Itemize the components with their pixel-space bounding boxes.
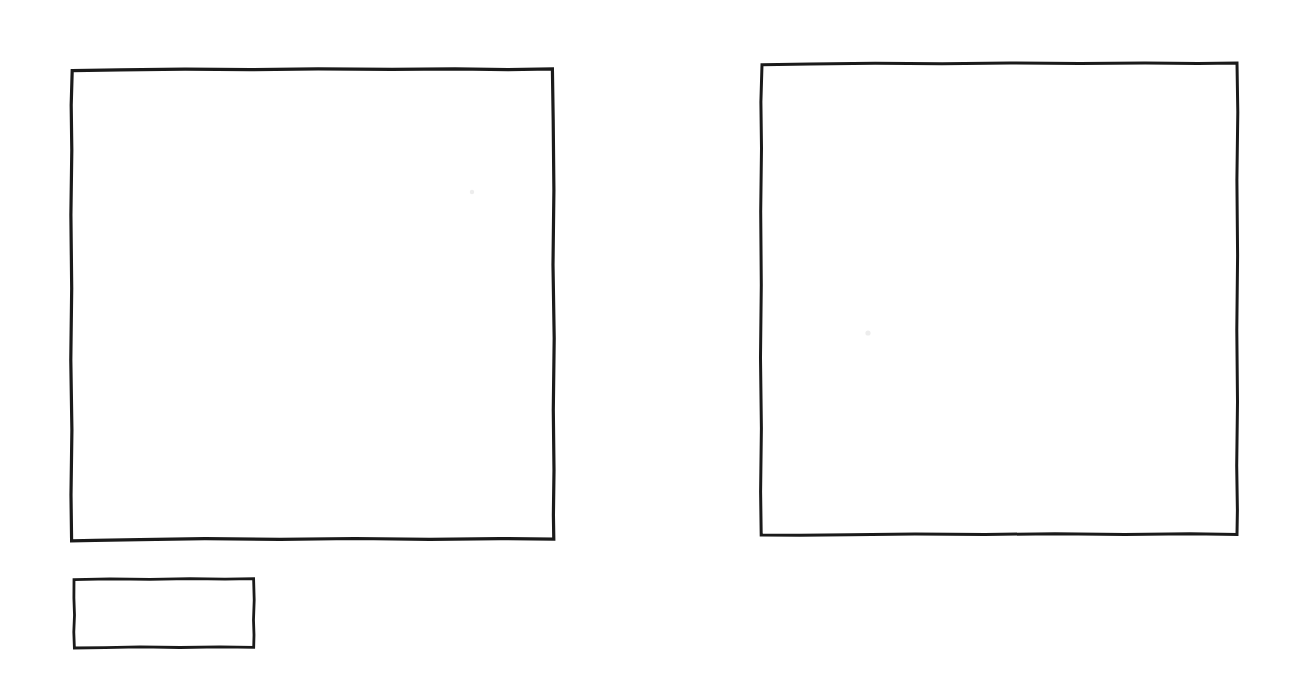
canvas-background — [0, 0, 1298, 691]
sketch-canvas — [0, 0, 1298, 691]
scan-speck-right-icon — [865, 330, 870, 335]
scan-speck-left-icon — [470, 190, 474, 194]
sketch-surface — [0, 0, 1298, 691]
